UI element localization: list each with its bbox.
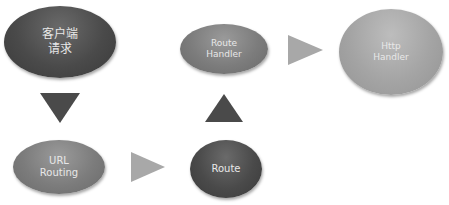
node-label-line: Handler (373, 52, 408, 63)
node-label-line: Route (211, 38, 237, 49)
node-http-handler: Http Handler (339, 9, 443, 95)
arrow-up-icon (205, 94, 243, 122)
arrow-right-icon (131, 152, 165, 182)
node-label-line: Routing (40, 167, 78, 180)
arrow-down-icon (40, 93, 80, 123)
node-label-line: URL (49, 155, 69, 168)
node-label-line: Route (211, 163, 240, 176)
node-route: Route (190, 140, 262, 198)
cropped-caption (12, 0, 282, 2)
node-label-line: 请求 (48, 42, 72, 57)
node-label-line: Http (381, 41, 401, 52)
node-label-line: 客户端 (42, 27, 78, 42)
node-url-routing: URL Routing (13, 140, 105, 194)
arrow-right-icon (288, 35, 323, 65)
node-label-line: Handler (206, 49, 241, 60)
node-client-request: 客户端 请求 (4, 6, 116, 78)
node-route-handler: Route Handler (180, 24, 268, 74)
